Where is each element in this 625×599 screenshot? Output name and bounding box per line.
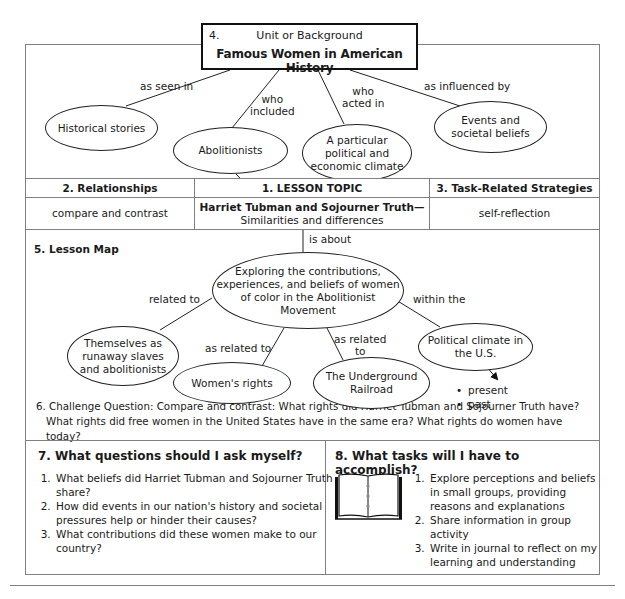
lesson-topic-table: 2. Relationships 1. LESSON TOPIC 3. Task… xyxy=(25,178,600,230)
node-text: of color in the Abolitionist xyxy=(216,291,399,304)
node-events-societal-beliefs: Events and societal beliefs xyxy=(434,101,547,153)
link-label-line: included xyxy=(250,105,295,117)
page-divider xyxy=(10,585,615,586)
task-item: Share information in group activity xyxy=(428,513,608,541)
node-text: Railroad xyxy=(326,383,418,396)
link-label-line: who xyxy=(342,85,384,97)
unit-background-box: 4. Unit or Background Famous Women in Am… xyxy=(201,23,418,70)
node-text: Movement xyxy=(216,304,399,317)
link-label-line: to xyxy=(334,345,386,357)
header-relationships: 2. Relationships xyxy=(25,178,195,198)
link-label-line: who xyxy=(250,93,295,105)
questions-title: 7. What questions should I ask myself? xyxy=(38,449,303,463)
node-text: Events and xyxy=(451,114,529,127)
node-text: Exploring the contributions, xyxy=(216,265,399,278)
question-item: What beliefs did Harriet Tubman and Sojo… xyxy=(54,471,334,499)
node-political-economic-climate: A particular political and economic clim… xyxy=(302,124,412,182)
node-text: Political climate in xyxy=(428,334,523,347)
link-label-within-the: within the xyxy=(413,293,465,305)
node-political-climate: Political climate in the U.S. xyxy=(418,323,533,371)
lesson-topic-line-1: Harriet Tubman and Sojourner Truth— xyxy=(200,201,425,214)
link-label-line: as related xyxy=(334,333,386,345)
link-label-who-included: who included xyxy=(250,93,295,117)
link-label-is-about: is about xyxy=(309,233,351,245)
node-text: Historical stories xyxy=(58,122,146,135)
node-text: experiences, and beliefs of women xyxy=(216,278,399,291)
value-relationships: compare and contrast xyxy=(25,197,195,230)
node-abolitionists: Abolitionists xyxy=(173,127,288,174)
node-lesson-center: Exploring the contributions, experiences… xyxy=(212,252,404,329)
link-label-related-to: related to xyxy=(149,293,200,305)
tasks-list: Explore perceptions and beliefs in small… xyxy=(412,471,608,569)
value-task-strategies: self-reflection xyxy=(429,197,600,230)
header-lesson-topic: 1. LESSON TOPIC xyxy=(194,178,430,198)
node-text: Women's rights xyxy=(191,377,272,390)
task-item: Write in journal to reflect on my learni… xyxy=(428,541,608,569)
unit-title: Famous Women in American History xyxy=(203,47,416,75)
node-underground-railroad: The Underground Railroad xyxy=(313,357,430,409)
node-text: Themselves as xyxy=(80,337,167,350)
lesson-topic-line-2: Similarities and differences xyxy=(241,214,384,227)
bullet-item: present xyxy=(456,383,508,397)
header-task-strategies: 3. Task-Related Strategies xyxy=(429,178,600,198)
node-text: runaway slaves xyxy=(80,350,167,363)
value-lesson-topic: Harriet Tubman and Sojourner Truth— Simi… xyxy=(194,197,430,230)
node-text: and abolitionists xyxy=(80,363,167,376)
link-label-influenced-by: as influenced by xyxy=(424,80,510,92)
node-text: political and xyxy=(311,147,404,160)
challenge-line-1: 6. Challenge Question: Compare and contr… xyxy=(36,399,596,414)
node-text: Abolitionists xyxy=(198,144,262,157)
node-text: societal beliefs xyxy=(451,127,529,140)
node-text: the U.S. xyxy=(428,347,523,360)
node-womens-rights: Women's rights xyxy=(173,362,291,404)
link-label-as-related: as related to xyxy=(334,333,386,357)
link-label-line: acted in xyxy=(342,97,384,109)
lesson-map-title: 5. Lesson Map xyxy=(34,243,119,255)
link-label-as-related-to: as related to xyxy=(205,342,271,354)
challenge-question: 6. Challenge Question: Compare and contr… xyxy=(36,399,596,444)
question-item: What contributions did these women make … xyxy=(54,527,334,555)
questions-list: What beliefs did Harriet Tubman and Sojo… xyxy=(38,471,334,555)
questions-section: 7. What questions should I ask myself? W… xyxy=(25,440,326,575)
unit-label: Unit or Background xyxy=(203,29,416,42)
node-text: economic climate xyxy=(311,160,404,173)
link-label-as-seen-in: as seen in xyxy=(140,80,193,92)
link-label-who-acted-in: who acted in xyxy=(342,85,384,109)
node-text: A particular xyxy=(311,134,404,147)
question-item: How did events in our nation's history a… xyxy=(54,499,334,527)
node-themselves: Themselves as runaway slaves and aboliti… xyxy=(67,326,179,386)
open-book-icon xyxy=(334,472,404,521)
task-item: Explore perceptions and beliefs in small… xyxy=(428,471,608,513)
node-text: The Underground xyxy=(326,370,418,383)
tasks-section: 8. What tasks will I have to accomplish?… xyxy=(326,440,600,575)
node-historical-stories: Historical stories xyxy=(45,105,158,151)
